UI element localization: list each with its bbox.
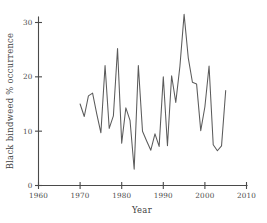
axes-group: [38, 17, 247, 186]
x-axis-title: Year: [131, 205, 152, 215]
y-axis-ticks: 0102030: [23, 18, 42, 190]
line-chart-svg: 0102030 196019701980199020002010 Year Bl…: [0, 0, 267, 223]
x-tick-label: 2000: [195, 191, 214, 200]
data-series-line: [80, 14, 226, 169]
y-tick-label: 10: [23, 127, 33, 136]
y-tick-label: 20: [23, 72, 33, 81]
x-axis-ticks: 196019701980199020002010: [29, 182, 256, 200]
x-tick-label: 2010: [237, 191, 256, 200]
y-tick-label: 30: [23, 18, 33, 27]
x-tick-label: 1960: [29, 191, 48, 200]
chart-figure: 0102030 196019701980199020002010 Year Bl…: [0, 0, 267, 223]
x-tick-label: 1970: [71, 191, 90, 200]
x-tick-label: 1980: [112, 191, 131, 200]
y-tick-label: 0: [28, 181, 33, 190]
y-axis-title: Black bindweed % occurrence: [5, 33, 15, 170]
x-tick-label: 1990: [154, 191, 173, 200]
